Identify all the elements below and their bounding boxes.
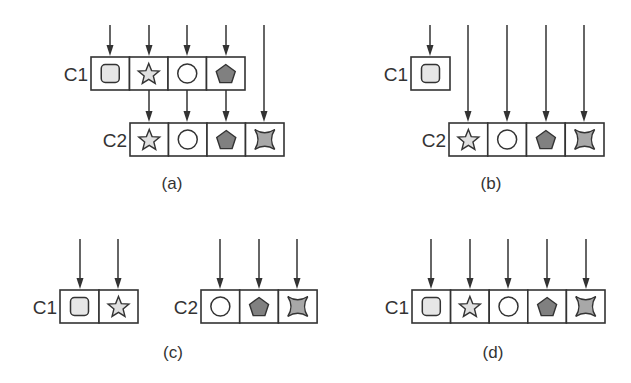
- four-point-star-icon: [255, 130, 275, 150]
- arrowhead-icon: [467, 278, 474, 289]
- down-arrow: [427, 25, 434, 56]
- arrowhead-icon: [223, 111, 230, 122]
- down-arrow: [184, 90, 191, 122]
- container-cell: [411, 57, 450, 90]
- panel-caption: (b): [481, 174, 502, 193]
- container-cell: [130, 57, 169, 90]
- container-cell: [60, 290, 99, 323]
- rounded-square-icon: [101, 65, 119, 83]
- down-arrow: [504, 25, 511, 122]
- container-cell: [240, 290, 279, 323]
- arrowhead-icon: [146, 45, 153, 56]
- diagram-panels: C1C2(a)C1C2(b)C1C2(c)C1(d): [33, 25, 605, 362]
- container-cell: [528, 290, 567, 323]
- down-arrow: [465, 25, 472, 122]
- container-cell: [207, 123, 246, 156]
- container-c2: C2: [174, 290, 317, 323]
- container-cell: [278, 290, 317, 323]
- panel-c: C1C2(c): [33, 239, 317, 362]
- rounded-square-icon: [422, 65, 440, 83]
- arrowhead-icon: [581, 111, 588, 122]
- arrowhead-icon: [544, 278, 551, 289]
- arrowhead-icon: [223, 45, 230, 56]
- four-point-star-icon: [576, 297, 596, 317]
- container-label: C2: [422, 130, 446, 151]
- down-arrow: [581, 25, 588, 122]
- container-c1: C1: [33, 290, 138, 323]
- down-arrow: [184, 25, 191, 56]
- circle-icon: [211, 297, 230, 316]
- panel-caption: (d): [483, 343, 504, 362]
- arrowhead-icon: [146, 111, 153, 122]
- container-c1: C1: [385, 290, 605, 323]
- container-label: C1: [385, 297, 409, 318]
- container-merge-diagram: C1C2(a)C1C2(b)C1C2(c)C1(d): [0, 0, 631, 383]
- container-c1: C1: [64, 57, 245, 90]
- down-arrow: [77, 239, 84, 289]
- down-arrow: [261, 25, 268, 122]
- panel-d: C1(d): [385, 239, 605, 362]
- circle-icon: [178, 64, 197, 83]
- container-cell: [169, 123, 208, 156]
- arrowhead-icon: [184, 111, 191, 122]
- down-arrow: [256, 239, 263, 289]
- container-cell: [168, 57, 207, 90]
- container-cell: [91, 57, 130, 90]
- arrowhead-icon: [256, 278, 263, 289]
- circle-icon: [178, 130, 197, 149]
- down-arrow: [223, 25, 230, 56]
- down-arrow: [146, 25, 153, 56]
- arrowhead-icon: [427, 45, 434, 56]
- arrowhead-icon: [428, 278, 435, 289]
- container-label: C1: [64, 64, 88, 85]
- arrowhead-icon: [107, 45, 114, 56]
- arrowhead-icon: [505, 278, 512, 289]
- down-arrow: [544, 239, 551, 289]
- panel-a: C1C2(a): [64, 25, 284, 193]
- container-cell: [489, 290, 528, 323]
- container-c2: C2: [422, 123, 604, 156]
- down-arrow: [505, 239, 512, 289]
- arrowhead-icon: [465, 111, 472, 122]
- down-arrow: [146, 90, 153, 122]
- container-cell: [527, 123, 566, 156]
- arrowhead-icon: [261, 111, 268, 122]
- down-arrow: [467, 239, 474, 289]
- panel-b: C1C2(b): [384, 25, 604, 193]
- down-arrow: [217, 239, 224, 289]
- container-cell: [99, 290, 138, 323]
- container-cell: [566, 290, 605, 323]
- container-cell: [207, 57, 246, 90]
- container-label: C2: [174, 297, 198, 318]
- down-arrow: [294, 239, 301, 289]
- container-label: C1: [384, 64, 408, 85]
- container-cell: [412, 290, 451, 323]
- arrowhead-icon: [77, 278, 84, 289]
- container-cell: [565, 123, 604, 156]
- arrowhead-icon: [115, 278, 122, 289]
- arrowhead-icon: [543, 111, 550, 122]
- down-arrow: [583, 239, 590, 289]
- container-c2: C2: [103, 123, 284, 156]
- down-arrow: [428, 239, 435, 289]
- container-label: C1: [33, 297, 57, 318]
- down-arrow: [543, 25, 550, 122]
- four-point-star-icon: [288, 297, 308, 317]
- arrowhead-icon: [217, 278, 224, 289]
- panel-caption: (c): [163, 343, 183, 362]
- container-label: C2: [103, 130, 127, 151]
- circle-icon: [498, 130, 517, 149]
- four-point-star-icon: [575, 130, 595, 150]
- container-cell: [449, 123, 488, 156]
- down-arrow: [115, 239, 122, 289]
- rounded-square-icon: [71, 298, 89, 316]
- container-cell: [246, 123, 285, 156]
- arrowhead-icon: [583, 278, 590, 289]
- arrowhead-icon: [504, 111, 511, 122]
- container-cell: [201, 290, 240, 323]
- container-c1: C1: [384, 57, 450, 90]
- container-cell: [488, 123, 527, 156]
- circle-icon: [499, 297, 518, 316]
- arrowhead-icon: [294, 278, 301, 289]
- rounded-square-icon: [422, 298, 440, 316]
